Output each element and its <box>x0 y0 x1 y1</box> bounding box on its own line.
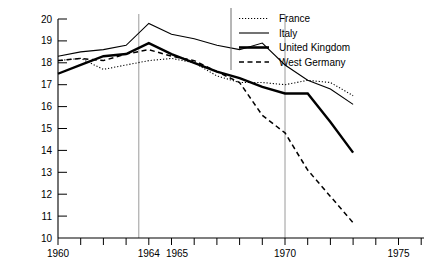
legend-label-italy: Italy <box>279 28 297 39</box>
x-tick-label-1964: 1964 <box>138 248 161 259</box>
legend-label-west-germany: West Germany <box>279 57 346 68</box>
chart-background <box>0 0 433 261</box>
y-tick-label-14: 14 <box>41 145 53 156</box>
y-tick-label-16: 16 <box>41 101 53 112</box>
line-chart: 20 19 18 17 16 15 14 13 12 11 10 <box>0 0 433 261</box>
x-tick-label-1970: 1970 <box>274 248 297 259</box>
y-tick-label-15: 15 <box>41 123 53 134</box>
legend-label-united-kingdom: United Kingdom <box>279 42 350 53</box>
y-tick-label-10: 10 <box>41 233 53 244</box>
y-tick-label-13: 13 <box>41 167 53 178</box>
y-tick-label-20: 20 <box>41 14 53 25</box>
y-tick-label-11: 11 <box>42 211 53 222</box>
x-tick-label-1965: 1965 <box>166 248 189 259</box>
x-tick-label-1960: 1960 <box>47 248 70 259</box>
y-tick-label-12: 12 <box>41 189 53 200</box>
chart-container: Live births per 1,000 of population <box>0 0 433 261</box>
y-tick-label-17: 17 <box>41 79 53 90</box>
y-tick-label-19: 19 <box>41 35 53 46</box>
legend-label-france: France <box>279 13 311 24</box>
y-tick-label-18: 18 <box>41 57 53 68</box>
x-tick-label-1975: 1975 <box>387 248 410 259</box>
